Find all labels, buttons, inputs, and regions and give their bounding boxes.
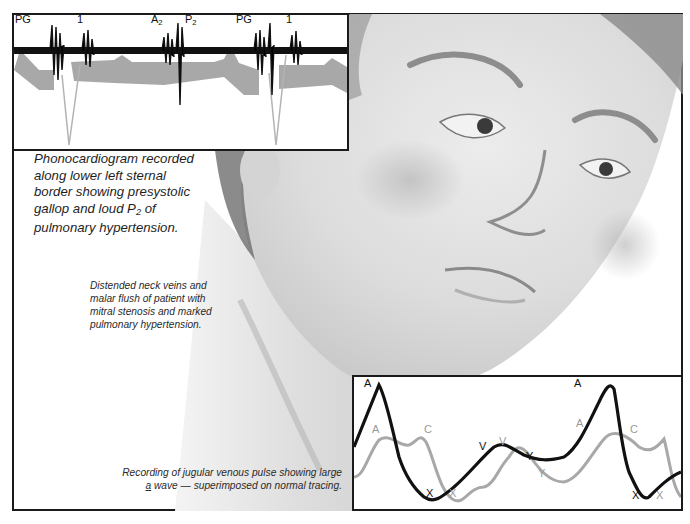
label-pg-2: PG [236, 13, 252, 25]
jvp-label-x-normal-1: X [449, 487, 456, 499]
phonocardiogram-inset: PG 1 A2 P2 PG 1 [12, 13, 349, 151]
phonocardiogram-caption: Phonocardiogram recorded along lower lef… [34, 151, 234, 237]
jvp-label-v-abnormal: V [479, 440, 486, 452]
jvp-label-y-normal: Y [538, 467, 545, 479]
label-s1-1: 1 [77, 13, 83, 25]
jvp-label-a-abnormal-2: A [574, 377, 581, 389]
jvp-inset: A A C V V Y Y X X A A C X X [352, 375, 683, 511]
jvp-label-c-normal-1: C [424, 423, 432, 435]
jvp-label-x-abnormal-2: X [632, 489, 639, 501]
neck-veins-caption: Distended neck veins and malar flush of … [90, 279, 290, 331]
label-s1-2: 1 [286, 13, 292, 25]
label-a2: A2 [151, 13, 163, 27]
jvp-label-x-abnormal-1: X [426, 487, 433, 499]
jvp-label-v-normal: V [499, 435, 506, 447]
jvp-label-c-normal-2: C [630, 423, 638, 435]
jvp-label-a-abnormal-1: A [364, 377, 371, 389]
jvp-label-x-normal-2: X [656, 489, 663, 501]
jvp-caption: Recording of jugular venous pulse showin… [92, 466, 342, 492]
label-pg-1: PG [15, 13, 31, 25]
jvp-label-y-abnormal: Y [526, 450, 533, 462]
jvp-label-a-normal-2: A [576, 417, 583, 429]
phonocardiogram-trace [14, 15, 347, 149]
jvp-label-a-normal-1: A [372, 423, 379, 435]
label-p2: P2 [185, 13, 197, 27]
